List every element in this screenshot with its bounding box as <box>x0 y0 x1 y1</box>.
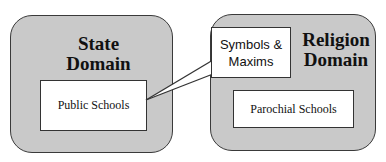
callout-line2: Maxims <box>212 53 290 70</box>
symbols-maxims-callout: Symbols & Maxims <box>211 27 291 78</box>
callout-line1: Symbols & <box>212 36 290 53</box>
callout-tail-connector <box>0 0 386 162</box>
